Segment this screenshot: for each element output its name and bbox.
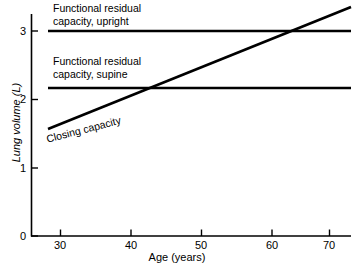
x-tick-label-50: 50 [188,240,214,251]
y-tick-label-3: 3 [10,26,26,37]
series-label-frc-supine: Functional residual capacity, supine [53,55,141,81]
y-axis-title: Lung volume (L) [11,63,22,183]
x-tick-label-30: 30 [47,240,73,251]
x-tick-label-60: 60 [259,240,285,251]
lung-volume-vs-age-chart: 0 1 2 3 30 40 50 60 70 Age (years) Lung … [0,0,354,271]
x-tick-label-40: 40 [118,240,144,251]
series-label-frc-upright: Functional residual capacity, upright [53,2,141,28]
x-tick-label-70: 70 [316,240,342,251]
x-axis-title: Age (years) [0,252,354,263]
y-tick-label-0: 0 [10,231,26,242]
